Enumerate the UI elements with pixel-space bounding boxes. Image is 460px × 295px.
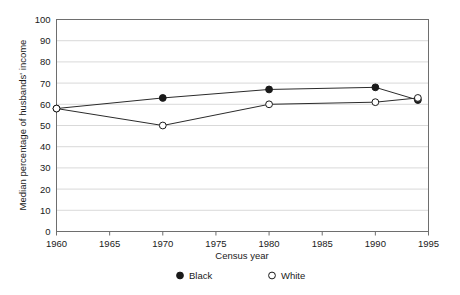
y-tick-label: 100 xyxy=(35,14,51,25)
data-point-black xyxy=(159,95,166,102)
series-line-white xyxy=(57,98,418,126)
y-tick-label: 50 xyxy=(40,120,51,131)
y-tick-label: 20 xyxy=(40,184,51,195)
y-axis-tick-labels: 0102030405060708090100 xyxy=(35,14,51,237)
y-tick-label: 70 xyxy=(40,78,51,89)
data-point-white xyxy=(414,95,421,102)
x-tick-label: 1995 xyxy=(418,238,439,249)
data-point-white xyxy=(159,122,166,129)
x-tick-label: 1960 xyxy=(46,238,67,249)
y-tick-label: 60 xyxy=(40,99,51,110)
x-axis-title: Census year xyxy=(215,250,268,261)
gridlines xyxy=(57,20,429,211)
x-tick-label: 1980 xyxy=(259,238,280,249)
line-chart: 0102030405060708090100 19601965197019751… xyxy=(0,0,460,295)
x-tick-label: 1990 xyxy=(365,238,386,249)
data-point-black xyxy=(372,84,379,91)
data-point-white xyxy=(53,105,60,112)
legend: BlackWhite xyxy=(177,270,306,281)
y-tick-label: 90 xyxy=(40,35,51,46)
x-tick-label: 1975 xyxy=(205,238,226,249)
legend-marker-black xyxy=(177,272,184,279)
legend-marker-white xyxy=(269,272,276,279)
legend-label-black: Black xyxy=(189,270,212,281)
data-point-white xyxy=(266,101,273,108)
data-point-black xyxy=(266,86,273,93)
x-axis-tick-labels: 19601965197019751980198519901995 xyxy=(46,238,439,249)
y-tick-label: 10 xyxy=(40,205,51,216)
y-tick-label: 40 xyxy=(40,141,51,152)
data-series-layer xyxy=(53,84,421,129)
y-tick-label: 80 xyxy=(40,56,51,67)
y-tick-label: 30 xyxy=(40,162,51,173)
x-tick-label: 1965 xyxy=(99,238,120,249)
legend-label-white: White xyxy=(281,270,305,281)
y-axis-title: Median percentage of husbands' income xyxy=(17,40,28,211)
series-line-black xyxy=(57,87,418,108)
x-axis-ticks xyxy=(57,232,429,236)
data-point-white xyxy=(372,99,379,106)
y-tick-label: 0 xyxy=(45,226,50,237)
x-tick-label: 1985 xyxy=(312,238,333,249)
x-tick-label: 1970 xyxy=(152,238,173,249)
